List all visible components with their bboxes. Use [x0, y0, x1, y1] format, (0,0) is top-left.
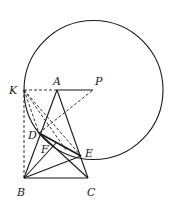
segment-bf	[24, 143, 56, 178]
label-k: K	[8, 84, 18, 97]
segment-dp	[39, 90, 93, 133]
label-a: A	[52, 75, 61, 88]
label-e: E	[84, 147, 93, 160]
segment-be	[24, 156, 81, 178]
geometry-diagram: K A P D F E B C	[0, 0, 173, 204]
label-f: F	[40, 143, 49, 156]
segment-kd	[24, 90, 39, 133]
label-p: P	[94, 75, 103, 88]
label-d: D	[27, 129, 37, 142]
label-b: B	[16, 186, 25, 199]
label-c: C	[87, 186, 96, 199]
